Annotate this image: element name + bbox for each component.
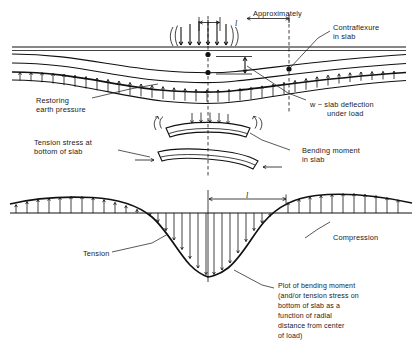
slab-deflection-label-line2: under load: [327, 109, 363, 118]
engineering-diagram: l Approximately Contraflexure: [0, 0, 418, 358]
tension-stress-label-line1: Tension stress at: [34, 138, 92, 147]
plot-caption-line4: function of radial: [278, 312, 332, 319]
plot-caption-line6: of load): [278, 332, 303, 340]
bending-moment-label-line1: Bending moment: [302, 146, 360, 155]
restoring-pressure-label-line2: earth pressure: [36, 105, 86, 114]
restoring-pressure-label-line1: Restoring: [36, 96, 69, 105]
load-brace-right: [231, 26, 233, 47]
contraflexure-label-line1: Contraflexure: [333, 23, 379, 32]
tension-stress-label-line2: bottom of slab: [34, 147, 83, 156]
compression-leader: [305, 222, 330, 238]
plot-caption-leader: [234, 270, 274, 288]
plot-caption-line2: (and/or tension stress on: [278, 292, 359, 300]
segment-edge-arrows: [135, 158, 282, 168]
contraflexure-label-line2: in slab: [333, 32, 355, 41]
plot-caption-line5: distance from center: [278, 322, 345, 329]
slab-deflection-label-line1: w ~ slab deflection: [309, 100, 374, 109]
bending-moment-leader: [250, 133, 290, 150]
tension-leader: [112, 234, 168, 252]
approximately-label: Approximately: [253, 9, 302, 18]
bending-moment-label-line2: in slab: [302, 155, 324, 164]
compression-plot-label: Compression: [333, 233, 378, 242]
load-brace-left-2: [175, 26, 177, 47]
applied-load-arrows: [179, 20, 228, 45]
load-brace-right-2: [236, 27, 239, 46]
curved-slab-segments: [118, 112, 290, 176]
plot-caption-line3: bottom of slab as a: [278, 302, 340, 309]
compression-hatch-right: [287, 194, 400, 213]
load-brace-left: [170, 27, 173, 46]
figure-canvas: l Approximately Contraflexure: [0, 0, 418, 358]
plot-caption: Plot of bending moment (and/or tension s…: [278, 282, 359, 340]
center-node-top: [205, 52, 210, 57]
tension-plot-label: Tension: [83, 249, 110, 258]
tension-hatch-center: [149, 213, 272, 275]
plot-length-dim-label: l: [246, 191, 249, 200]
center-node-mid: [205, 70, 210, 75]
tension-stress-leader: [118, 150, 150, 157]
plot-caption-line1: Plot of bending moment: [278, 282, 355, 290]
load-width-dim-label: l: [235, 19, 238, 28]
